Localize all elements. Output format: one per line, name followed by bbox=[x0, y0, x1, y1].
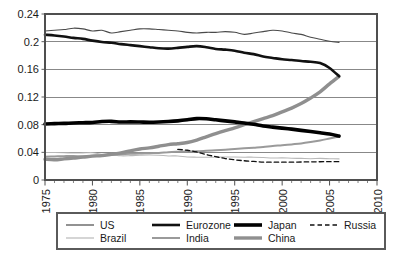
x-axis-tick-label: 1995 bbox=[229, 189, 241, 213]
x-axis-tick-label: 1975 bbox=[40, 189, 52, 213]
legend-label-us: US bbox=[100, 219, 115, 231]
x-axis-tick-label: 1990 bbox=[182, 189, 194, 213]
y-axis-tick-label: 0.16 bbox=[18, 63, 39, 75]
legend-label-russia: Russia bbox=[344, 219, 376, 231]
legend-label-brazil: Brazil bbox=[100, 232, 126, 244]
legend-label-china: China bbox=[268, 232, 296, 244]
legend-label-eurozone: Eurozone bbox=[186, 219, 231, 231]
series-line-india bbox=[45, 137, 339, 157]
series-line-japan bbox=[45, 119, 339, 137]
gridlines bbox=[45, 14, 377, 152]
y-axis-tick-label: 0.08 bbox=[18, 119, 39, 131]
y-axis-tick-label: 0.2 bbox=[24, 36, 39, 48]
x-axis-labels: 19751980198519901995200020052010 bbox=[40, 189, 384, 213]
x-axis-tick-label: 2005 bbox=[324, 189, 336, 213]
x-axis-tick-label: 1980 bbox=[87, 189, 99, 213]
x-axis-tick-label: 1985 bbox=[134, 189, 146, 213]
legend-label-india: India bbox=[186, 232, 209, 244]
line-chart: 00.040.080.120.160.20.24 197519801985199… bbox=[0, 0, 393, 256]
y-axis-tick-label: 0.24 bbox=[18, 8, 39, 20]
legend-label-japan: Japan bbox=[268, 219, 297, 231]
chart-container: 00.040.080.120.160.20.24 197519801985199… bbox=[0, 0, 393, 256]
x-axis-tick-label: 2010 bbox=[372, 189, 384, 213]
y-axis-tick-label: 0.04 bbox=[18, 146, 39, 158]
series-line-eurozone bbox=[45, 35, 339, 77]
data-series-layer bbox=[45, 28, 339, 162]
chart-legend: USEurozoneJapanRussiaBrazilIndiaChina bbox=[57, 213, 385, 249]
y-axis-tick-label: 0.12 bbox=[18, 91, 39, 103]
x-axis-tick-label: 2000 bbox=[277, 189, 289, 213]
y-axis-labels: 00.040.080.120.160.20.24 bbox=[18, 8, 39, 186]
y-axis-tick-label: 0 bbox=[33, 174, 39, 186]
